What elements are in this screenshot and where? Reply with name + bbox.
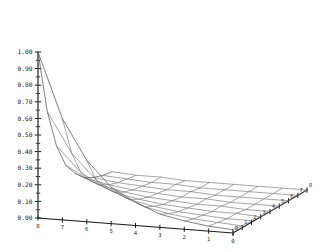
z-tick-label: 0.60: [18, 115, 33, 122]
z-tick-label: 0.70: [18, 98, 33, 105]
surface-mesh: [38, 52, 307, 233]
z-tick-label: 0.80: [18, 81, 33, 88]
x-tick-label: 8: [36, 223, 40, 229]
y-tick-label: 7: [299, 187, 302, 193]
x-tick-label: 4: [134, 230, 138, 236]
y-tick-label: 8: [309, 182, 313, 188]
x-tick-label: 3: [158, 232, 161, 238]
x-tick-label: 6: [85, 226, 88, 232]
z-tick-label: 0.50: [18, 131, 33, 138]
mesh-line-v: [103, 175, 298, 195]
x-tick-label: 7: [61, 224, 64, 230]
z-tick-label: 0.90: [18, 65, 33, 72]
y-tick-label: 5: [281, 198, 284, 204]
y-tick-label: 6: [290, 193, 293, 199]
z-tick-label: 0.10: [18, 198, 33, 205]
x-tick-label: 5: [109, 228, 112, 234]
z-tick-label: 0.00: [18, 214, 33, 221]
z-tick-label: 0.30: [18, 164, 33, 171]
mesh-line-v: [47, 111, 242, 226]
mesh-line-v: [38, 52, 233, 230]
x-tick-label: 1: [207, 236, 210, 242]
z-tick-label: 1.00: [18, 48, 33, 55]
surface-plot-3d: 1.000.900.800.700.600.500.400.300.200.10…: [0, 0, 327, 252]
x-tick-label: 2: [183, 234, 186, 240]
y-axis-ticks: 012345678: [233, 182, 313, 236]
y-tick-label: 3: [262, 209, 265, 215]
mesh-line-u: [160, 184, 234, 214]
x-tick-label: 0: [231, 238, 234, 244]
plot-canvas: 1.000.900.800.700.600.500.400.300.200.10…: [0, 0, 327, 252]
mesh-line-u: [62, 119, 136, 185]
z-tick-label: 0.40: [18, 148, 33, 155]
z-tick-label: 0.20: [18, 181, 33, 188]
